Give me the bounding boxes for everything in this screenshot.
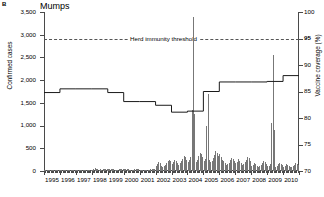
y-axis-right-tick: [299, 65, 303, 66]
y-axis-left-tick-label: 500: [2, 145, 36, 151]
y-axis-right-tick: [299, 92, 303, 93]
x-axis-year-label: 2010: [280, 176, 302, 183]
y-axis-right-tick-label: 80: [304, 115, 320, 121]
y-axis-left-tick-label: 3,500: [2, 9, 36, 15]
y-axis-right-tick-label: 90: [304, 62, 320, 68]
y-axis-left-tick: [40, 148, 44, 149]
plot-area: [44, 12, 299, 171]
y-axis-right-tick-label: 85: [304, 88, 320, 94]
y-axis-left-tick: [40, 12, 44, 13]
y-axis-left-tick-label: 3,000: [2, 32, 36, 38]
y-axis-left-tick: [40, 103, 44, 104]
y-axis-left-tick-label: 1,000: [2, 122, 36, 128]
y-axis-right-tick-label: 100: [304, 9, 320, 15]
y-axis-right-tick: [299, 145, 303, 146]
y-axis-left-tick-label: 2,500: [2, 54, 36, 60]
y-axis-left-tick: [40, 126, 44, 127]
y-axis-left-tick-label: 0: [2, 168, 36, 174]
y-axis-left-tick-label: 2,000: [2, 77, 36, 83]
y-axis-right-tick-label: 70: [304, 168, 320, 174]
vaccine-coverage-step-line: [44, 12, 299, 171]
y-axis-right-tick-label: 75: [304, 141, 320, 147]
figure-panel-mumps: B Mumps Confirmed cases Vaccine coverage…: [0, 0, 324, 197]
y-axis-right-tick: [299, 118, 303, 119]
y-axis-right-tick: [299, 12, 303, 13]
chart-title: Mumps: [40, 1, 70, 11]
y-axis-right-tick-label: 95: [304, 35, 320, 41]
y-axis-left-tick: [40, 57, 44, 58]
y-axis-left-tick-label: 1,500: [2, 100, 36, 106]
x-axis-tick: [299, 171, 300, 175]
y-axis-left-tick: [40, 35, 44, 36]
y-axis-left-tick: [40, 80, 44, 81]
y-axis-right-tick: [299, 39, 303, 40]
panel-letter: B: [2, 1, 6, 7]
